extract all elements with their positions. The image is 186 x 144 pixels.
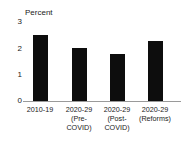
- y-tick-label-3: 3: [8, 18, 22, 26]
- x-tick-line: COVID): [94, 123, 140, 132]
- x-tick-line: 2020-29: [132, 105, 178, 114]
- x-tick-line: (Reforms): [132, 114, 178, 123]
- plot-area: 3 2 1 0 2010-19 2020-29 (Pre- COVID) 202…: [0, 0, 186, 144]
- y-tick-label-1: 1: [8, 71, 22, 79]
- bar-2020-29-post-covid: [110, 54, 125, 101]
- x-tick-label-2020-29-reforms: 2020-29 (Reforms): [132, 105, 178, 123]
- bar-chart-figure: Percent 3 2 1 0 2010-19 2020-29 (Pre- CO…: [0, 0, 186, 144]
- y-tick-label-0: 0: [8, 97, 22, 105]
- x-axis-line: [23, 101, 181, 102]
- y-tick-label-2: 2: [8, 45, 22, 53]
- bar-2020-29-pre-covid: [72, 48, 87, 101]
- bar-2020-29-reforms: [148, 41, 163, 101]
- bar-2010-19: [33, 35, 48, 101]
